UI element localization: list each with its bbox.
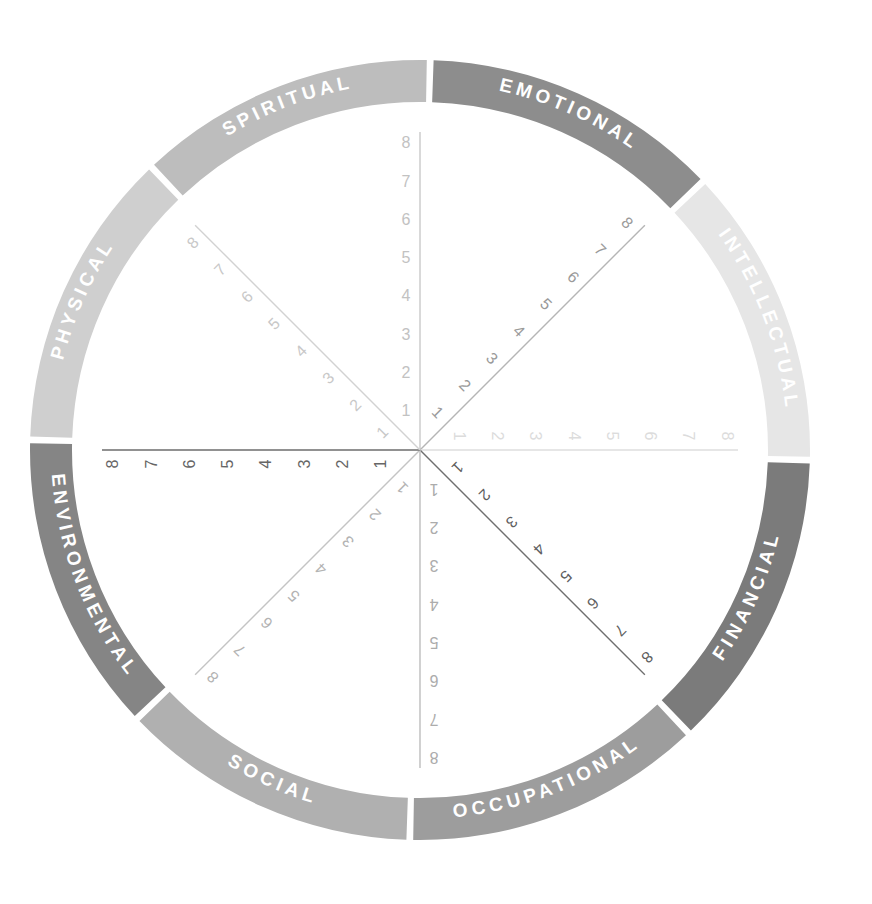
axis-social-environmental-tick: 3 — [339, 533, 357, 551]
axis-environmental-physical-tick: 5 — [219, 459, 236, 468]
axis-environmental-physical: 12345678 — [102, 450, 420, 468]
axis-emotional-intellectual-tick: 7 — [591, 241, 609, 259]
axis-occupational-social-tick: 6 — [429, 672, 438, 689]
wheel-segment-intellectual[interactable] — [675, 184, 810, 457]
axis-emotional-spiritual-tick: 4 — [402, 287, 411, 304]
axis-social-environmental-tick: 4 — [312, 560, 330, 578]
axis-financial-occupational-tick: 8 — [638, 648, 656, 666]
axis-social-environmental-tick: 8 — [203, 668, 221, 686]
axis-environmental-physical-tick: 2 — [334, 459, 351, 468]
wheel-segment-social[interactable] — [139, 692, 407, 840]
axis-financial-occupational-tick: 7 — [611, 621, 629, 639]
axis-financial-occupational-line — [420, 450, 645, 675]
axis-environmental-physical-tick: 1 — [372, 459, 389, 468]
axis-intellectual-financial-tick: 6 — [642, 432, 659, 441]
axis-emotional-spiritual-tick: 8 — [402, 134, 411, 151]
axis-emotional-intellectual: 12345678 — [420, 214, 645, 450]
axis-environmental-physical-tick: 6 — [181, 459, 198, 468]
axis-financial-occupational-tick: 5 — [557, 567, 575, 585]
wheel-segment-financial[interactable] — [662, 462, 810, 730]
axis-physical-spiritual: 12345678 — [184, 225, 420, 450]
axis-physical-spiritual-line — [195, 225, 420, 450]
wheel-axes-group: 1234567812345678123456781234567812345678… — [102, 132, 738, 768]
axis-emotional-intellectual-tick: 6 — [564, 268, 582, 286]
axis-physical-spiritual-tick: 6 — [238, 288, 256, 306]
axis-financial-occupational-tick: 3 — [503, 513, 521, 531]
axis-financial-occupational-tick: 1 — [448, 459, 466, 477]
axis-emotional-intellectual-line — [420, 225, 645, 450]
wellness-wheel-chart: 1234567812345678123456781234567812345678… — [0, 0, 872, 904]
axis-occupational-social-tick: 4 — [429, 596, 438, 613]
axis-environmental-physical-tick: 8 — [104, 459, 121, 468]
wheel-segment-emotional[interactable] — [432, 60, 700, 208]
axis-occupational-social-tick: 2 — [429, 519, 438, 536]
axis-intellectual-financial: 12345678 — [420, 432, 738, 450]
axis-emotional-intellectual-tick: 3 — [483, 349, 501, 367]
axis-emotional-spiritual-tick: 1 — [402, 402, 411, 419]
axis-financial-occupational-tick: 4 — [530, 540, 548, 558]
axis-occupational-social: 12345678 — [420, 450, 438, 768]
axis-intellectual-financial-tick: 5 — [604, 432, 621, 441]
axis-physical-spiritual-tick: 5 — [265, 315, 283, 333]
axis-social-environmental-tick: 7 — [230, 641, 248, 659]
axis-social-environmental-tick: 5 — [285, 587, 303, 605]
axis-intellectual-financial-tick: 2 — [489, 432, 506, 441]
axis-emotional-spiritual-tick: 5 — [402, 249, 411, 266]
axis-social-environmental: 12345678 — [195, 450, 420, 686]
axis-physical-spiritual-tick: 2 — [346, 396, 364, 414]
axis-intellectual-financial-tick: 8 — [719, 432, 736, 441]
axis-social-environmental-tick: 2 — [366, 506, 384, 524]
axis-physical-spiritual-tick: 4 — [292, 342, 310, 360]
axis-occupational-social-tick: 3 — [429, 557, 438, 574]
axis-occupational-social-tick: 7 — [429, 710, 438, 727]
axis-emotional-spiritual-tick: 3 — [402, 326, 411, 343]
axis-emotional-intellectual-tick: 2 — [456, 376, 474, 394]
axis-physical-spiritual-tick: 7 — [211, 260, 229, 278]
axis-emotional-intellectual-tick: 8 — [618, 214, 636, 232]
axis-occupational-social-tick: 1 — [429, 481, 438, 498]
axis-emotional-spiritual-tick: 6 — [402, 211, 411, 228]
axis-intellectual-financial-tick: 3 — [527, 432, 544, 441]
axis-emotional-spiritual: 12345678 — [402, 132, 420, 450]
axis-financial-occupational: 12345678 — [420, 450, 656, 675]
axis-intellectual-financial-tick: 7 — [680, 432, 697, 441]
axis-social-environmental-tick: 6 — [258, 614, 276, 632]
axis-social-environmental-line — [195, 450, 420, 675]
axis-environmental-physical-tick: 4 — [257, 459, 274, 468]
axis-environmental-physical-tick: 3 — [296, 459, 313, 468]
axis-occupational-social-tick: 8 — [429, 749, 438, 766]
axis-occupational-social-tick: 5 — [429, 634, 438, 651]
axis-financial-occupational-tick: 6 — [584, 594, 602, 612]
axis-intellectual-financial-tick: 1 — [451, 432, 468, 441]
axis-physical-spiritual-tick: 8 — [184, 233, 202, 251]
axis-emotional-intellectual-tick: 5 — [537, 295, 555, 313]
axis-social-environmental-tick: 1 — [393, 478, 411, 496]
axis-intellectual-financial-tick: 4 — [566, 432, 583, 441]
wellness-wheel-canvas: 1234567812345678123456781234567812345678… — [0, 0, 872, 904]
wheel-segment-spiritual[interactable] — [154, 60, 427, 195]
wheel-segment-physical[interactable] — [30, 169, 178, 437]
axis-environmental-physical-tick: 7 — [143, 459, 160, 468]
axis-emotional-spiritual-tick: 2 — [402, 364, 411, 381]
axis-emotional-intellectual-tick: 1 — [429, 403, 447, 421]
axis-financial-occupational-tick: 2 — [476, 486, 494, 504]
axis-emotional-spiritual-tick: 7 — [402, 173, 411, 190]
axis-emotional-intellectual-tick: 4 — [510, 322, 528, 340]
axis-physical-spiritual-tick: 1 — [373, 423, 391, 441]
axis-physical-spiritual-tick: 3 — [319, 369, 337, 387]
